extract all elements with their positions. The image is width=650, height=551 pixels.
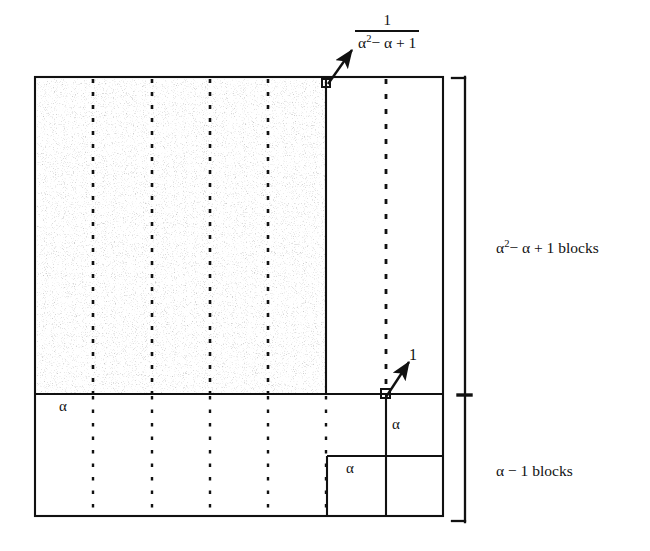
fraction-bar [355,30,419,32]
fraction-denominator: α2− α + 1 [355,34,419,52]
block-decomposition-figure: 1 α2− α + 1 1 α α α α2− α + 1 blocks α −… [0,0,650,551]
top-fraction-label: 1 α2− α + 1 [355,12,419,52]
lower-left-alpha-label: α [59,399,67,414]
unit-length-label: 1 [409,347,417,363]
scan-noise-speckle [37,79,325,393]
nested-block-alpha-label: α [346,461,354,476]
grouping-bracket [452,77,471,522]
lower-bracket-blocks-label: α − 1 blocks [496,463,573,479]
upper-bracket-alpha: α [496,239,504,256]
fraction-numerator: 1 [355,12,419,30]
upper-bracket-rest: − α + 1 blocks [509,239,598,256]
denominator-rest: − α + 1 [371,34,416,51]
upper-bracket-blocks-label: α2− α + 1 blocks [496,240,599,256]
denominator-alpha: α [358,34,366,51]
right-column-alpha-label: α [392,417,400,432]
